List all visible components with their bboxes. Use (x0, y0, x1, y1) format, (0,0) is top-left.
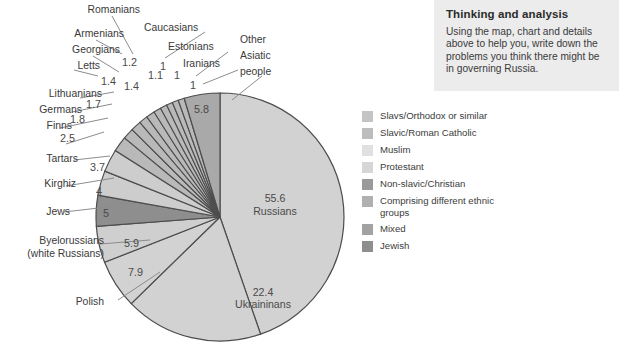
pie-label-letts: Letts (0, 60, 100, 72)
legend: Slavs/Orthodox or similarSlavic/Roman Ca… (362, 110, 512, 257)
pie-label-byelorussians-line2: (white Russians) (0, 248, 104, 260)
legend-item: Protestant (362, 161, 512, 173)
pie-inside-value-russians: 55.6 (230, 192, 320, 204)
pie-inside-label-ukraininans: Ukraininans (218, 298, 308, 310)
pie-value-1-4-b: 1.4 (124, 81, 139, 93)
pie-value-3-7: 3.7 (90, 162, 105, 174)
pie-label-finns: Finns (0, 120, 72, 132)
legend-item-label: Comprising different ethnic groups (380, 195, 512, 218)
pie-value-4: 4 (96, 186, 102, 198)
legend-item: Slavs/Orthodox or similar (362, 110, 512, 122)
pie-label-kirghiz: Kirghiz (0, 178, 76, 190)
legend-item-label: Mixed (380, 223, 406, 235)
legend-swatch-icon (362, 179, 373, 190)
legend-swatch-icon (362, 111, 373, 122)
pie-value-7-9: 7.9 (128, 267, 143, 279)
legend-swatch-icon (362, 196, 373, 207)
pie-value-5-9: 5.9 (124, 238, 139, 250)
thinking-panel-title: Thinking and analysis (446, 8, 609, 21)
legend-item-label: Slavs/Orthodox or similar (380, 110, 487, 122)
pie-value-1-c: 1 (190, 80, 196, 92)
pie-label-other-asiatic-line1: Other (240, 34, 266, 46)
legend-swatch-icon (362, 224, 373, 235)
pie-value-1-8: 1.8 (70, 114, 85, 126)
pie-label-caucasians: Caucasians (144, 22, 198, 34)
pie-label-armenians: Armenians (0, 28, 124, 40)
legend-item-label: Non-slavic/Christian (380, 178, 465, 190)
legend-item-label: Muslim (380, 144, 410, 156)
pie-value-1-a: 1 (160, 61, 166, 73)
thinking-panel-body: Using the map, chart and details above t… (446, 26, 609, 76)
pie-label-romanians: Romanians (0, 4, 140, 16)
leader-line (203, 70, 238, 84)
pie-label-other-asiatic-line3: people (240, 66, 271, 78)
pie-label-polish: Polish (0, 296, 104, 308)
pie-value-2-5: 2.5 (60, 133, 75, 145)
pie-value-5-8: 5.8 (194, 104, 209, 116)
legend-item-label: Jewish (380, 240, 409, 252)
leader-line (74, 156, 110, 160)
pie-inside-value-ukraininans: 22.4 (218, 286, 308, 298)
thinking-and-analysis-panel: Thinking and analysis Using the map, cha… (434, 0, 619, 91)
pie-value-1-7: 1.7 (86, 99, 101, 111)
legend-item: Mixed (362, 223, 512, 235)
pie-label-estonians: Estonians (168, 41, 214, 53)
legend-item: Muslim (362, 144, 512, 156)
pie-value-5: 5 (103, 208, 109, 220)
pie-label-byelorussians-line1: Byelorussians (0, 235, 104, 247)
legend-swatch-icon (362, 128, 373, 139)
pie-value-1-4-a: 1.4 (101, 76, 116, 88)
legend-item-label: Slavic/Roman Catholic (380, 127, 477, 139)
pie-label-tartars: Tartars (0, 153, 78, 165)
legend-item: Non-slavic/Christian (362, 178, 512, 190)
pie-label-other-asiatic-line2: Asiatic (240, 50, 271, 62)
pie-label-iranians: Iranians (183, 58, 220, 70)
legend-item-label: Protestant (380, 161, 424, 173)
pie-label-georgians: Georgians (0, 44, 120, 56)
pie-label-jews: Jews (0, 206, 70, 218)
pie-value-1-2: 1.2 (122, 57, 137, 69)
legend-item: Jewish (362, 240, 512, 252)
legend-swatch-icon (362, 162, 373, 173)
chart-page: Romanians Caucasians Armenians Georgians… (0, 0, 619, 351)
legend-item: Slavic/Roman Catholic (362, 127, 512, 139)
pie-inside-label-russians: Russians (230, 205, 320, 217)
legend-swatch-icon (362, 145, 373, 156)
legend-item: Comprising different ethnic groups (362, 195, 512, 218)
legend-swatch-icon (362, 241, 373, 252)
pie-value-1-b: 1 (174, 70, 180, 82)
